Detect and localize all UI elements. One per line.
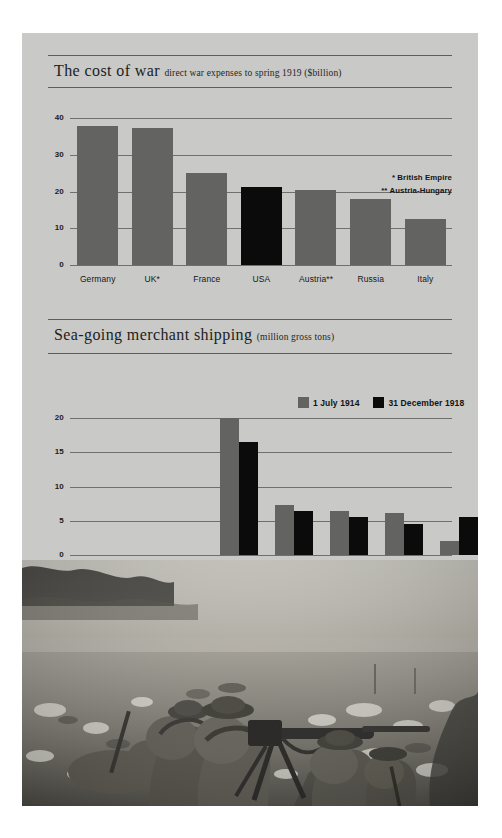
chart1-ytick-40: 40 xyxy=(44,113,64,122)
chart1-axis-0 xyxy=(70,265,452,266)
legend-label-1914: 1 July 1914 xyxy=(313,398,359,408)
chart1-bar-uk xyxy=(132,128,173,266)
wwi-machine-gun-photograph xyxy=(22,560,478,806)
chart1-xlabel-usa: USA xyxy=(234,274,290,285)
chart1-rule-bottom xyxy=(48,87,452,88)
chart2-bar-otherallies-1914 xyxy=(275,505,294,555)
chart2-rule-top xyxy=(48,319,452,320)
legend-swatch-black-icon xyxy=(373,397,384,408)
chart1-bar-france xyxy=(186,173,227,265)
chart1-xlabel-russia: Russia xyxy=(343,274,399,285)
legend-label-1918: 31 December 1918 xyxy=(388,398,464,408)
chart1-rule-top xyxy=(48,55,452,56)
chart2-ytick-20: 20 xyxy=(44,413,64,422)
chart2-ytick-15: 15 xyxy=(44,447,64,456)
chart1-xlabel-uk: UK* xyxy=(124,274,180,285)
chart2-ytick-5: 5 xyxy=(44,516,64,525)
chart2-ytick-0: 0 xyxy=(44,550,64,559)
chart1-bar-austria xyxy=(295,190,336,265)
chart2-header: Sea-going merchant shipping (million gro… xyxy=(54,326,334,344)
chart2-bar-usa-1914 xyxy=(440,541,459,555)
chart2-bar-neutrals-1918 xyxy=(349,517,368,555)
chart1-title: The cost of war xyxy=(54,62,160,79)
chart2-bar-neutrals-1914 xyxy=(330,511,349,555)
chart1-bar-russia xyxy=(350,199,391,265)
chart2-plot-area: 20 15 10 5 0 UK Other allies xyxy=(70,418,452,555)
chart1-gridline-30 xyxy=(70,155,452,156)
chart2-ytick-10: 10 xyxy=(44,482,64,491)
chart1-header: The cost of war direct war expenses to s… xyxy=(54,62,342,80)
chart2-bar-usa-1918 xyxy=(459,517,478,555)
chart1-ytick-0: 0 xyxy=(44,260,64,269)
chart1-note-british-empire: * British Empire xyxy=(275,173,452,182)
chart2-bar-otherallies-1918 xyxy=(294,511,313,555)
chart1-subtitle: direct war expenses to spring 1919 ($bil… xyxy=(164,68,341,78)
chart2-legend: 1 July 1914 31 December 1918 xyxy=(298,397,464,408)
chart1-ytick-10: 10 xyxy=(44,223,64,232)
chart2-bar-centralpowers-1918 xyxy=(404,524,423,555)
chart2-gridline-10 xyxy=(70,487,452,488)
legend-swatch-gray-icon xyxy=(298,397,309,408)
chart1-note-austria-hungary: ** Austria-Hungary xyxy=(275,186,452,195)
chart1-ytick-30: 30 xyxy=(44,150,64,159)
chart2-bar-uk-1914 xyxy=(220,418,239,555)
chart2-title: Sea-going merchant shipping xyxy=(54,326,252,343)
chart1-xlabel-italy: Italy xyxy=(397,274,453,285)
chart2-axis-0 xyxy=(70,555,452,556)
chart2-gridline-15 xyxy=(70,452,452,453)
chart1-bar-germany xyxy=(77,126,118,265)
legend-item-1914: 1 July 1914 xyxy=(298,397,359,408)
chart2-gridline-20 xyxy=(70,418,452,419)
chart1-plot-area: 40 30 20 10 0 Germany UK* France USA Aus… xyxy=(70,118,452,265)
chart1-xlabel-france: France xyxy=(179,274,235,285)
chart2-subtitle: (million gross tons) xyxy=(257,332,334,342)
chart1-gridline-40 xyxy=(70,118,452,119)
page-panel: The cost of war direct war expenses to s… xyxy=(22,33,478,806)
chart1-bar-usa xyxy=(241,187,282,265)
legend-item-1918: 31 December 1918 xyxy=(373,397,464,408)
chart1-xlabel-germany: Germany xyxy=(70,274,126,285)
chart2-bar-centralpowers-1914 xyxy=(385,513,404,556)
chart2-bar-uk-1918 xyxy=(239,442,258,555)
chart2-rule-bottom xyxy=(48,353,452,354)
chart1-bar-italy xyxy=(405,219,446,265)
chart1-ytick-20: 20 xyxy=(44,187,64,196)
chart1-xlabel-austria: Austria** xyxy=(288,274,344,285)
